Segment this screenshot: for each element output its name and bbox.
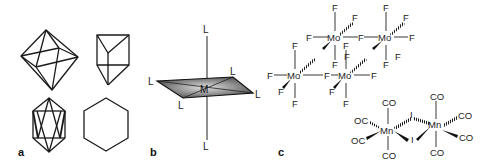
f-atom: F <box>292 98 298 109</box>
co-ligand: CO <box>430 147 444 158</box>
f-atom: F <box>329 86 335 97</box>
icosahedron-shape <box>33 98 65 152</box>
f-atom: F <box>306 32 312 43</box>
f-atom: F <box>267 70 273 81</box>
ligand-label-bottom: L <box>203 141 209 152</box>
carbonyl-labels: CO OC OC CO CO CO CO CO I I <box>351 91 473 161</box>
f-atom: F <box>403 12 409 23</box>
f-atom: F <box>383 59 389 70</box>
co-ligand: CO <box>459 132 473 143</box>
ligand-label-front-left: L <box>178 100 184 111</box>
mo-atom-4: Mo <box>338 70 351 81</box>
hexagon-shape <box>84 98 128 151</box>
mn-atom-1: Mn <box>380 125 393 136</box>
ligand-label-left: L <box>148 76 154 87</box>
f-atom: F <box>344 51 350 62</box>
co-ligand: CO <box>382 150 396 161</box>
mo-atom-2: Mo <box>378 32 391 43</box>
f-atom: F <box>358 32 364 43</box>
panel-c-label: c <box>278 146 284 158</box>
metal-label: M <box>200 84 208 95</box>
f-atom: F <box>383 2 389 13</box>
f-atom: F <box>278 86 284 97</box>
f-atom: F <box>343 98 349 109</box>
iodine-bridge-front: I <box>411 134 414 145</box>
panel-b: L L L L L L M <box>148 24 261 152</box>
trigonal-prism-shape <box>97 35 129 85</box>
f-atom: F <box>332 2 338 13</box>
co-ligand: CO <box>382 97 396 108</box>
f-atom: F <box>332 59 338 70</box>
figure-canvas: a L L L L L L M b <box>0 0 494 167</box>
octahedron-shape <box>21 30 78 90</box>
ligand-label-right: L <box>255 89 261 100</box>
ligand-label-top: L <box>203 24 209 35</box>
f-atom: F <box>343 40 349 51</box>
f-atom: F <box>409 32 415 43</box>
panel-a-label: a <box>18 146 25 158</box>
f-atom: F <box>352 12 358 23</box>
mo-atom-3: Mo <box>287 70 300 81</box>
panel-a <box>21 30 129 152</box>
f-atom: F <box>324 70 330 81</box>
f-atom-labels: F F F F F F F F F F F F F F F F F F F F <box>267 2 415 109</box>
ligand-label-back-right: L <box>230 66 236 77</box>
panel-b-label: b <box>150 146 157 158</box>
co-ligand: OC <box>354 115 368 126</box>
iodine-bridge-back: I <box>410 109 413 120</box>
f-atom: F <box>395 51 401 62</box>
mo-atom-1: Mo <box>327 32 340 43</box>
mn-atom-2: Mn <box>428 119 441 130</box>
co-ligand: CO <box>430 91 444 102</box>
f-atom: F <box>371 70 377 81</box>
mo-fluoride-tetramer <box>274 12 408 98</box>
f-atom: F <box>292 40 298 51</box>
co-ligand: CO <box>458 110 472 121</box>
co-ligand: OC <box>351 135 365 146</box>
